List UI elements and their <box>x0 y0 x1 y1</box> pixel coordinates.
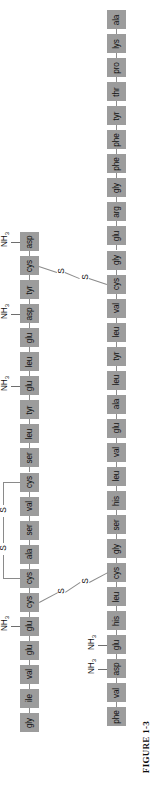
residue-label: glu <box>25 645 33 656</box>
residue-box: ala <box>20 545 39 564</box>
residue-box: leu <box>107 323 126 342</box>
residue-label: pro <box>112 62 120 74</box>
residue-label: leu <box>112 327 120 338</box>
residue-box: ala <box>107 10 126 29</box>
residue-box: val <box>107 443 126 462</box>
residue-box: val <box>107 683 126 702</box>
residue-box: his <box>107 611 126 630</box>
figure-caption-prefix: FIGURE <box>141 736 151 773</box>
disulfide-segment <box>3 517 4 543</box>
residue-label: phe <box>112 133 120 146</box>
residue-label: tyr <box>112 111 120 120</box>
disulfide-segment <box>3 482 4 505</box>
residue-box: phe <box>107 707 126 726</box>
residue-label: val <box>112 688 120 698</box>
residue-label: glu <box>25 621 33 632</box>
residue-label: glu <box>25 332 33 343</box>
residue-label: thr <box>112 87 120 96</box>
figure-caption: FIGURE 1-3 <box>141 717 151 777</box>
residue-box: glu <box>107 419 126 438</box>
amine-group-subscript: 3 <box>90 659 96 662</box>
disulfide-segment <box>88 278 107 285</box>
residue-label: gly <box>25 717 33 727</box>
residue-label: cys <box>25 476 33 488</box>
residue-box: cys <box>20 473 39 492</box>
residue-box: ser <box>20 448 39 467</box>
residue-box: leu <box>107 467 126 486</box>
residue-label: gly <box>112 544 120 554</box>
residue-label: ser <box>112 519 120 530</box>
residue-label: val <box>25 501 33 511</box>
residue-box: cys <box>107 563 126 582</box>
residue-box: leu <box>20 352 39 371</box>
residue-box: tyr <box>20 400 39 419</box>
residue-box: pro <box>107 58 126 77</box>
residue-box: asp <box>20 304 39 323</box>
residue-box: glu <box>20 641 39 660</box>
residue-box: ala <box>107 395 126 414</box>
residue-label: val <box>112 447 120 457</box>
disulfide-segment <box>3 555 4 578</box>
amine-group-label: NH3 <box>87 634 96 650</box>
residue-box: gly <box>107 178 126 197</box>
amine-bond-stem <box>11 386 20 387</box>
residue-box: leu <box>107 587 126 606</box>
residue-label: leu <box>112 375 120 386</box>
amine-group-text: NH <box>87 662 96 674</box>
sulfur-label: S <box>0 542 8 554</box>
residue-label: val <box>112 303 120 313</box>
residue-label: phe <box>112 157 120 170</box>
figure-caption-number: 1-3 <box>141 721 151 734</box>
amine-bond-stem <box>11 626 20 627</box>
amine-group-subscript: 3 <box>90 635 96 638</box>
residue-box: phe <box>107 130 126 149</box>
residue-box: glu <box>107 635 126 654</box>
residue-label: ser <box>25 452 33 463</box>
amine-group-label: NH3 <box>0 616 9 632</box>
residue-label: gly <box>112 183 120 193</box>
residue-box: thr <box>107 82 126 101</box>
amine-group-text: NH <box>87 638 96 650</box>
residue-label: ser <box>25 525 33 536</box>
residue-label: glu <box>112 423 120 434</box>
disulfide-segment <box>65 582 81 593</box>
residue-box: lys <box>107 34 126 53</box>
amine-group-label: NH3 <box>0 303 9 319</box>
amine-group-subscript: 3 <box>3 304 9 307</box>
amine-group-label: NH3 <box>0 231 9 247</box>
residue-box: cys <box>20 569 39 588</box>
residue-label: his <box>112 495 120 505</box>
disulfide-segment <box>39 266 58 273</box>
amine-bond-stem <box>98 645 107 646</box>
residue-box: val <box>20 497 39 516</box>
residue-box: phe <box>107 154 126 173</box>
amine-group-label: NH3 <box>0 375 9 391</box>
residue-label: leu <box>25 356 33 367</box>
residue-label: his <box>112 616 120 626</box>
residue-label: glu <box>112 231 120 242</box>
sulfur-label: S <box>0 504 8 516</box>
residue-label: cys <box>112 278 120 290</box>
residue-label: cys <box>25 572 33 584</box>
disulfide-segment <box>89 573 108 584</box>
residue-box: ser <box>107 515 126 534</box>
disulfide-segment <box>3 482 20 483</box>
residue-label: phe <box>112 710 120 723</box>
residue-box: ser <box>20 521 39 540</box>
residue-label: cys <box>25 260 33 272</box>
residue-label: lys <box>112 39 120 49</box>
residue-label: ala <box>112 14 120 25</box>
amine-bond-stem <box>11 242 20 243</box>
residue-label: ile <box>25 694 33 702</box>
amine-group-subscript: 3 <box>3 376 9 379</box>
residue-label: arg <box>112 206 120 218</box>
residue-label: asp <box>25 235 33 248</box>
amine-bond-stem <box>11 314 20 315</box>
residue-label: glu <box>112 639 120 650</box>
amine-group-text: NH <box>0 379 9 391</box>
residue-label: leu <box>25 429 33 440</box>
sulfur-label: S <box>80 575 90 587</box>
chain-b: alalysprothrtyrphepheglyarggluglycysvall… <box>107 0 126 801</box>
residue-box: glu <box>20 617 39 636</box>
residue-box: arg <box>107 202 126 221</box>
